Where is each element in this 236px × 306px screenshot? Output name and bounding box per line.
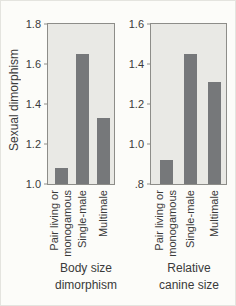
plot-area: 1.61.41.21.0.8Pair living or monogamousS… [150, 23, 227, 185]
y-tick-mark [147, 144, 151, 145]
bar [97, 118, 110, 184]
bar [184, 54, 197, 184]
y-tick-label: 1.8 [26, 18, 41, 30]
y-tick-mark [147, 104, 151, 105]
y-tick-mark [44, 64, 48, 65]
x-category-label: Single-male [184, 190, 197, 248]
y-tick-mark [147, 64, 151, 65]
chart-relative-canine-size: 1.61.41.21.0.8Pair living or monogamousS… [119, 1, 236, 306]
y-tick-mark [44, 104, 48, 105]
y-tick-label: 1.0 [26, 178, 41, 190]
bar [160, 160, 173, 184]
y-tick-mark [147, 184, 151, 185]
bar [208, 82, 221, 184]
y-tick-mark [147, 24, 151, 25]
x-category-label: Pair living or monogamous [153, 190, 179, 257]
x-category-label: Multimale [97, 190, 110, 237]
y-tick-label: 1.4 [26, 98, 41, 110]
bar [55, 168, 68, 184]
y-tick-label: 1.4 [129, 58, 144, 70]
chart-title-canine-size: Relative canine size [119, 260, 236, 294]
y-tick-label: 1.6 [129, 18, 144, 30]
x-category-label: Multimale [208, 190, 221, 237]
y-tick-mark [44, 24, 48, 25]
bar [76, 54, 89, 184]
x-category-label: Pair living or monogamous [48, 190, 74, 257]
y-tick-label: 1.2 [129, 98, 144, 110]
y-tick-mark [44, 184, 48, 185]
y-tick-label: .8 [135, 178, 144, 190]
x-category-label: Single-male [76, 190, 89, 248]
dimorphism-figure: Sexual dimorphism 1.81.61.41.21.0Pair li… [0, 0, 236, 306]
y-tick-label: 1.2 [26, 138, 41, 150]
y-tick-mark [44, 144, 48, 145]
y-tick-label: 1.0 [129, 138, 144, 150]
plot-area: 1.81.61.41.21.0Pair living or monogamous… [47, 23, 115, 185]
chart-body-size-dimorphism: 1.81.61.41.21.0Pair living or monogamous… [1, 1, 119, 306]
y-tick-label: 1.6 [26, 58, 41, 70]
